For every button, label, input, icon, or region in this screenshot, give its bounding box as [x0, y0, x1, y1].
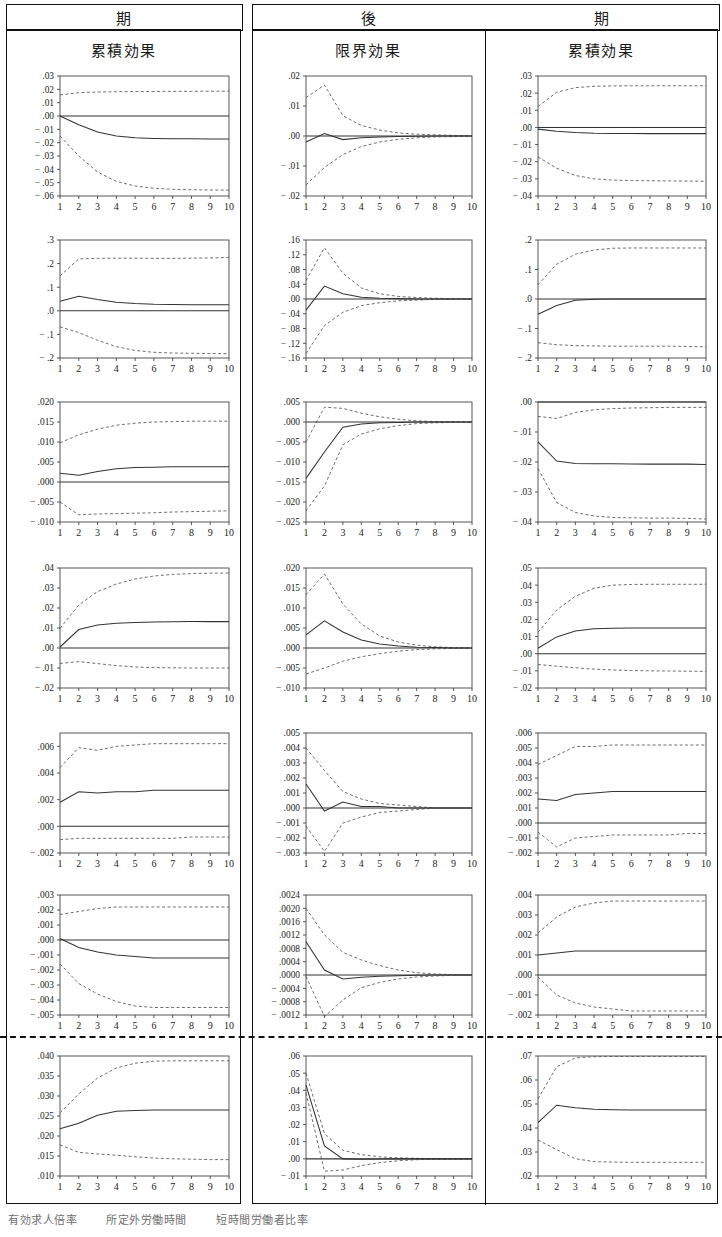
y-tick-label: .03 — [42, 71, 54, 81]
y-tick-label: .005 — [516, 743, 533, 753]
y-tick-label: .04 — [288, 1086, 300, 1096]
series-point — [60, 790, 229, 802]
x-tick-label: 8 — [433, 858, 438, 869]
y-tick-label: .001 — [516, 803, 533, 813]
x-tick-label: 7 — [648, 1181, 653, 1192]
series-upper — [538, 248, 706, 285]
y-tick-label: − .1 — [517, 324, 532, 334]
y-tick-label: − .002 — [508, 1010, 532, 1020]
series-lower — [60, 964, 229, 1008]
x-tick-label: 9 — [451, 363, 456, 374]
x-tick-label: 2 — [322, 1181, 327, 1192]
x-tick-label: 1 — [304, 693, 309, 704]
x-tick-label: 5 — [610, 201, 615, 212]
chart-cell-r2c2: .16.12.08.04.00− .04− .08− .12− .1612345… — [252, 232, 484, 380]
chart-cell-r1c1: .03.02.01.00− .01− .02− .03− .04− .05− .… — [6, 68, 241, 218]
chart-cell-r5c2: .005.004.003.002.001.000− .001− .002− .0… — [252, 725, 484, 875]
chart-svg-r4c1: .04.03.02.01.00− .01− .0212345678910 — [6, 560, 241, 710]
y-tick-label: .03 — [42, 583, 54, 593]
y-tick-label: .2 — [47, 259, 54, 269]
y-tick-label: − .08 — [281, 324, 301, 334]
chart-cell-r6c2: .0024.0020.0016.0012.0008.0004.0000− .00… — [252, 887, 484, 1037]
y-tick-label: .0012 — [279, 930, 300, 940]
y-tick-label: .06 — [520, 1075, 532, 1085]
y-tick-label: .002 — [284, 773, 301, 783]
y-tick-label: − .005 — [276, 437, 300, 447]
series-upper — [538, 1056, 706, 1098]
x-tick-label: 1 — [58, 693, 63, 704]
y-tick-label: .001 — [38, 920, 55, 930]
y-tick-label: − .02 — [513, 157, 533, 167]
x-tick-label: 5 — [610, 363, 615, 374]
chart-cell-r1c2: .02.01.00− .01− .0212345678910 — [252, 68, 484, 218]
series-point — [538, 792, 706, 801]
x-tick-label: 1 — [536, 693, 541, 704]
x-tick-label: 8 — [189, 1020, 194, 1031]
x-tick-label: 5 — [610, 1020, 615, 1031]
y-tick-label: .02 — [520, 615, 532, 625]
y-tick-label: .000 — [284, 643, 301, 653]
y-tick-label: .006 — [38, 742, 55, 752]
plot-frame — [60, 1056, 229, 1176]
x-tick-label: 7 — [414, 201, 419, 212]
y-tick-label: − .05 — [35, 178, 55, 188]
x-tick-label: 4 — [592, 201, 597, 212]
x-tick-label: 1 — [304, 201, 309, 212]
series-point — [60, 939, 229, 959]
y-tick-label: .0 — [47, 306, 54, 316]
y-tick-label: .05 — [288, 1069, 300, 1079]
chart-cell-r3c3: .00− .01− .02− .03− .0412345678910 — [484, 394, 718, 544]
x-tick-label: 8 — [189, 858, 194, 869]
plot-frame — [60, 402, 229, 522]
chart-cell-r6c3: .004.003.002.001.000− .001− .00212345678… — [484, 887, 718, 1037]
y-tick-label: .001 — [284, 788, 301, 798]
y-tick-label: .03 — [520, 71, 532, 81]
series-lower — [306, 299, 472, 354]
x-tick-label: 9 — [451, 527, 456, 538]
x-tick-label: 6 — [151, 1181, 156, 1192]
x-tick-label: 2 — [76, 201, 81, 212]
x-tick-label: 7 — [170, 363, 175, 374]
y-tick-label: − .0012 — [271, 1010, 300, 1020]
y-tick-label: − .16 — [281, 353, 301, 363]
y-tick-label: .000 — [516, 970, 533, 980]
y-tick-label: .00 — [42, 643, 54, 653]
y-tick-label: .01 — [42, 98, 54, 108]
x-tick-label: 6 — [396, 363, 401, 374]
y-tick-label: − .010 — [276, 457, 300, 467]
footer-segment-1: 有効求人倍率 — [8, 1211, 77, 1227]
x-tick-label: 6 — [629, 363, 634, 374]
y-tick-label: .03 — [520, 1147, 532, 1157]
x-tick-label: 10 — [701, 363, 711, 374]
y-tick-label: .0008 — [279, 944, 300, 954]
x-tick-label: 6 — [629, 527, 634, 538]
y-tick-label: − .02 — [281, 191, 301, 201]
column-title-cumulative-left: 累積効果 — [6, 36, 241, 62]
x-tick-label: 1 — [58, 527, 63, 538]
series-lower — [538, 1140, 706, 1162]
x-tick-label: 2 — [76, 527, 81, 538]
x-tick-label: 6 — [629, 858, 634, 869]
y-tick-label: − .03 — [35, 151, 55, 161]
y-tick-label: .0004 — [279, 957, 300, 967]
x-tick-label: 6 — [396, 201, 401, 212]
y-tick-label: − .01 — [513, 666, 533, 676]
series-upper — [538, 745, 706, 765]
chart-svg-r7c3: .07.06.05.04.03.0212345678910 — [484, 1048, 718, 1198]
series-upper — [538, 901, 706, 933]
series-point — [60, 467, 229, 475]
x-tick-label: 8 — [666, 363, 671, 374]
figure-page: 期 後 期 累積効果 限界効果 累積効果 .03.02.01.00− .01− … — [0, 0, 722, 1237]
x-tick-label: 9 — [685, 201, 690, 212]
y-tick-label: − .002 — [30, 848, 54, 858]
y-tick-label: − .002 — [30, 965, 54, 975]
x-tick-label: 9 — [208, 693, 213, 704]
series-point — [538, 442, 706, 465]
y-tick-label: − .001 — [30, 950, 54, 960]
x-tick-label: 10 — [224, 858, 234, 869]
y-tick-label: .003 — [516, 910, 533, 920]
series-upper — [538, 86, 706, 107]
x-tick-label: 7 — [648, 1020, 653, 1031]
x-tick-label: 4 — [359, 363, 364, 374]
chart-svg-r5c1: .006.004.002.000− .00212345678910 — [6, 725, 241, 875]
